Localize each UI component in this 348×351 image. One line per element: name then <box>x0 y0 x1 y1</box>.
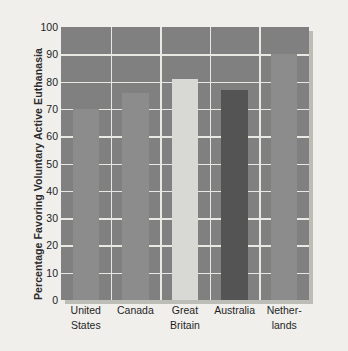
x-tick-label-line: Canada <box>111 303 161 318</box>
y-axis-tick-labels: 0102030405060708090100 <box>36 27 58 300</box>
bar <box>172 79 198 300</box>
y-tick-label: 60 <box>36 130 58 142</box>
y-tick-label: 90 <box>36 48 58 60</box>
x-tick-label-line: lands <box>259 318 309 333</box>
y-tick-label: 10 <box>36 267 58 279</box>
x-tick-label-line: Great <box>160 303 210 318</box>
category-separator <box>160 27 162 300</box>
x-tick-label: GreatBritain <box>160 303 210 333</box>
category-separator <box>259 27 261 300</box>
x-tick-label-line: United <box>61 303 111 318</box>
x-tick-label: Canada <box>111 303 161 318</box>
x-axis-tick-labels: UnitedStatesCanadaGreatBritainAustraliaN… <box>61 303 309 347</box>
category-separator <box>111 27 113 300</box>
plot-area <box>61 27 309 300</box>
y-tick-label: 70 <box>36 103 58 115</box>
x-tick-label: Australia <box>210 303 260 318</box>
category-separator <box>210 27 212 300</box>
x-tick-label-line: Britain <box>160 318 210 333</box>
bar-chart-figure: Percentage Favoring Voluntary Active Eut… <box>0 0 348 351</box>
x-tick-label-line: Australia <box>210 303 260 318</box>
bar <box>73 109 99 300</box>
y-tick-label: 50 <box>36 158 58 170</box>
y-tick-label: 40 <box>36 185 58 197</box>
y-tick-label: 80 <box>36 76 58 88</box>
y-tick-label: 30 <box>36 212 58 224</box>
y-tick-label: 0 <box>36 294 58 306</box>
bar <box>122 93 148 300</box>
y-tick-label: 20 <box>36 239 58 251</box>
x-tick-label: UnitedStates <box>61 303 111 333</box>
bar <box>271 54 297 300</box>
x-tick-label-line: States <box>61 318 111 333</box>
x-tick-label-line: Nether- <box>259 303 309 318</box>
bar <box>221 90 247 300</box>
x-tick-label: Nether-lands <box>259 303 309 333</box>
y-tick-label: 100 <box>36 21 58 33</box>
